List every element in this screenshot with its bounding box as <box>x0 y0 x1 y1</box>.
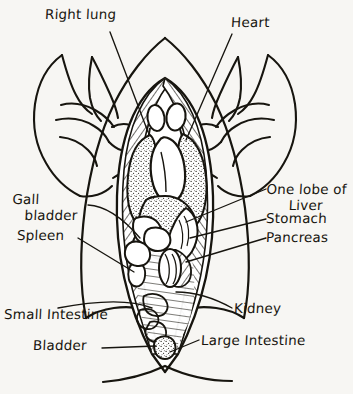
label-one-lobe-of: One lobe of <box>266 182 347 198</box>
label-one-lobe-of-liver: One lobe of Liver <box>265 182 347 214</box>
label-spleen: Spleen <box>17 229 65 244</box>
label-bladder-upper: bladder <box>11 208 78 224</box>
label-pancreas: Pancreas <box>266 231 329 246</box>
label-heart: Heart <box>231 16 270 31</box>
label-gall: Gall <box>12 192 79 208</box>
label-large-intestine: Large Intestine <box>201 334 306 349</box>
label-small-intestine: Small Intestine <box>4 308 109 323</box>
label-kidney: Kidney <box>234 302 282 317</box>
label-gall-bladder: Gall bladder <box>11 192 79 224</box>
label-right-lung: Right lung <box>45 8 117 23</box>
kidney-organ <box>159 249 181 287</box>
label-bladder: Bladder <box>33 339 87 354</box>
label-stomach: Stomach <box>266 212 328 227</box>
bladder-organ <box>154 336 175 359</box>
